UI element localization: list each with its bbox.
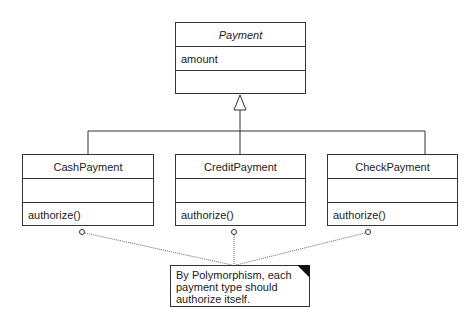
class-name: CreditPayment [176,155,305,179]
class-name: Payment [176,23,305,47]
uml-note: By Polymorphism, each payment type shoul… [170,265,310,307]
generalization-arrowhead [234,95,246,110]
note-line: payment type should [176,281,304,293]
folded-corner-icon [297,265,310,278]
class-payment: Payment amount [175,22,306,94]
class-name: CashPayment [23,155,153,179]
class-creditpayment: CreditPayment authorize() [175,154,306,226]
class-attributes [328,179,457,203]
class-operation: authorize() [328,203,457,227]
class-operation: authorize() [23,203,153,227]
note-line: authorize itself. [176,293,304,305]
class-attributes [176,179,305,203]
anchor-circle-cash [80,230,85,235]
anchor-circle-check [366,230,371,235]
note-line: By Polymorphism, each [176,269,304,281]
anchor-circle-credit [232,230,237,235]
class-name: CheckPayment [328,155,457,179]
class-cashpayment: CashPayment authorize() [22,154,154,226]
class-attributes [23,179,153,203]
class-checkpayment: CheckPayment authorize() [327,154,458,226]
class-operation: authorize() [176,203,305,227]
class-operations [176,71,305,95]
class-attribute: amount [176,47,305,71]
